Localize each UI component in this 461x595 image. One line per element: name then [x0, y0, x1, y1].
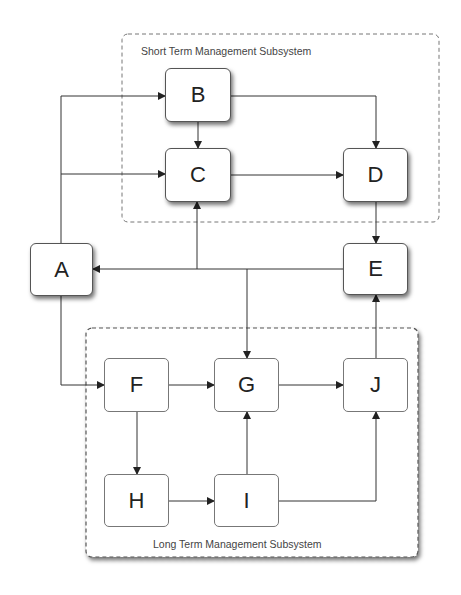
edge-b-d — [231, 96, 376, 148]
node-i[interactable]: I — [214, 474, 279, 527]
node-a[interactable]: A — [30, 243, 93, 296]
node-h[interactable]: H — [104, 474, 169, 527]
node-b[interactable]: B — [165, 68, 231, 122]
system-diagram: Short Term Management Subsystem Long Ter… — [0, 0, 461, 595]
node-g[interactable]: G — [214, 358, 279, 412]
short-term-subsystem-label: Short Term Management Subsystem — [141, 45, 311, 57]
node-d[interactable]: D — [343, 148, 408, 202]
node-f[interactable]: F — [104, 358, 169, 412]
node-j[interactable]: J — [343, 358, 408, 412]
long-term-subsystem-label: Long Term Management Subsystem — [153, 538, 321, 550]
node-c[interactable]: C — [165, 148, 231, 202]
edge-a-b — [61, 96, 165, 243]
node-e[interactable]: E — [343, 243, 408, 295]
